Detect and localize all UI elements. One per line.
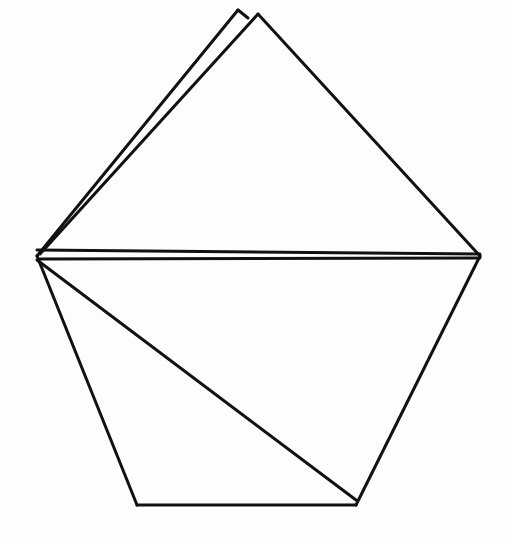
flap-left-edge-a: [37, 10, 238, 256]
fold-line-upper: [37, 250, 480, 254]
fold-line-lower: [40, 258, 480, 259]
diagram-canvas: [0, 0, 510, 538]
interior-diagonal: [37, 260, 356, 500]
flap-right-edge: [258, 14, 480, 256]
pentagon-left-edge: [37, 256, 137, 505]
pentagon-right-edge: [356, 256, 480, 505]
flap-left-edge-b: [40, 14, 258, 254]
pentagon-fold-figure: [0, 0, 510, 538]
apex-connector: [238, 10, 248, 18]
